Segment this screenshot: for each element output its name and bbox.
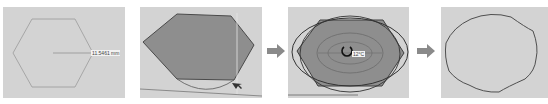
hexagon-with-ellipses — [288, 7, 409, 98]
step-3-panel: 12°C — [288, 7, 409, 98]
filled-hexagon-with-arc — [140, 7, 262, 98]
rotation-angle-label: 12°C — [352, 51, 365, 57]
arrow-right-icon — [267, 44, 285, 58]
step-2-panel — [140, 7, 262, 98]
radius-measurement-label: 11.5461 mm — [91, 50, 120, 56]
wavy-hexagon-result — [441, 7, 548, 98]
step-4-panel — [441, 7, 548, 98]
arrow-right-icon — [417, 44, 435, 58]
step-1-panel: 11.5461 mm — [3, 7, 125, 98]
